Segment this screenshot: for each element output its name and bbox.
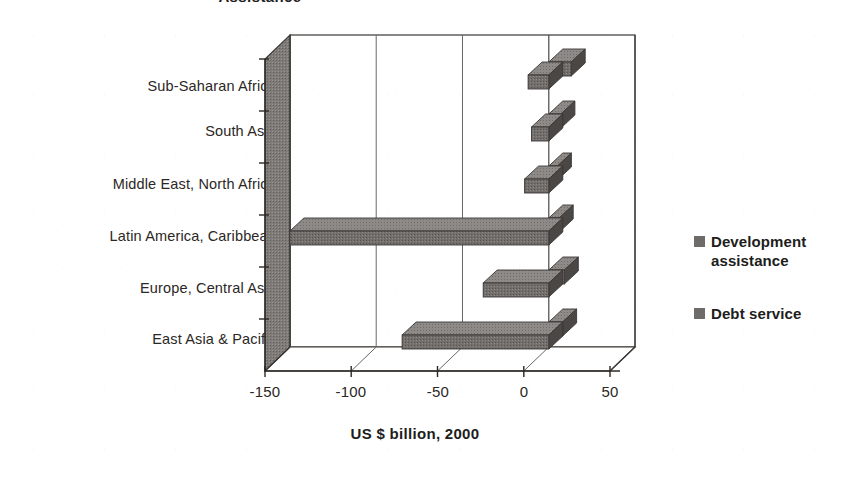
legend-swatch-development-assistance (694, 236, 705, 247)
chart-container: Assistance Sub-Saharan Africa South Asia… (0, 0, 867, 488)
bar-europe-central-asia-debt-service (483, 270, 563, 297)
bar-latin-america-caribbean-debt-service (290, 218, 563, 245)
legend-swatch-debt-service (694, 308, 705, 319)
legend-item-development-assistance[interactable]: Development assistance (694, 232, 862, 270)
x-tick-label-neg150: -150 (225, 383, 305, 400)
x-axis-title: US $ billion, 2000 (285, 425, 545, 442)
legend-label-debt-service: Debt service (711, 305, 801, 322)
legend-label-development-assistance-line2: assistance (711, 252, 789, 269)
x-tick-label-0: 0 (484, 383, 564, 400)
legend-item-debt-service[interactable]: Debt service (694, 304, 862, 323)
x-tick-label-50: 50 (570, 383, 650, 400)
chart-legend: Development assistance Debt service (694, 232, 862, 323)
x-tick-label-neg100: -100 (311, 383, 391, 400)
x-tick-label-neg50: -50 (398, 383, 478, 400)
bar-east-asia-pacific-debt-service (402, 322, 563, 349)
legend-spacer (694, 270, 862, 304)
legend-label-development-assistance-line1: Development (711, 233, 806, 250)
plot-left-depth-wall (265, 35, 290, 371)
